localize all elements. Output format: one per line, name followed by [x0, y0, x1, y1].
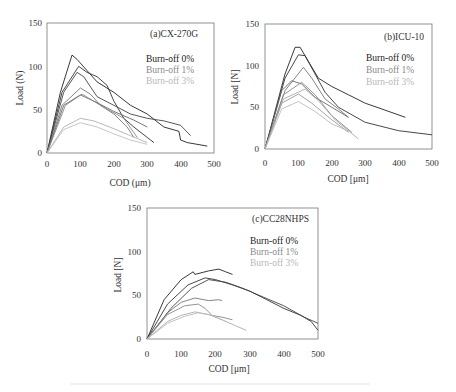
data-series-line: [147, 298, 222, 339]
x-axis-title: COD [μm]: [327, 174, 368, 184]
curves: [147, 269, 318, 339]
y-tick: 0: [137, 334, 142, 344]
y-tick: 0: [255, 144, 260, 154]
x-tick: 100: [73, 159, 87, 169]
x-tick: 500: [425, 158, 439, 168]
chart-panel-c: (c)CC28NHPS Burn-off 0% Burn-off 1% Burn…: [113, 203, 325, 374]
chart-panel-a: (a)CX-270G Burn-off 0% Burn-off 1% Burn-…: [15, 18, 221, 189]
x-tick-labels: 0 100 200 300 400 500: [145, 349, 326, 359]
y-tick: 50: [132, 290, 142, 300]
chart-panel-b: (b)ICU-10 Burn-off 0% Burn-off 1% Burn-o…: [230, 19, 439, 184]
x-tick: 100: [174, 349, 188, 359]
y-tick-labels: 0 50 100 150: [128, 203, 142, 344]
x-tick: 200: [325, 158, 339, 168]
legend-burnoff-0: Burn-off 0%: [250, 236, 298, 246]
legend-burnoff-0: Burn-off 0%: [366, 53, 414, 63]
legend-burnoff-3: Burn-off 3%: [250, 258, 298, 268]
x-tick: 400: [392, 158, 406, 168]
x-tick: 500: [207, 159, 221, 169]
x-tick: 0: [145, 349, 150, 359]
x-axis-title: COD [μm]: [208, 364, 249, 374]
y-tick: 150: [246, 19, 260, 29]
data-series-line: [265, 67, 349, 149]
panel-title: (b)ICU-10: [384, 32, 424, 43]
data-series-line: [147, 313, 226, 339]
y-tick: 50: [33, 105, 43, 115]
x-tick: 200: [208, 349, 222, 359]
data-series-line: [47, 66, 154, 153]
x-tick: 400: [277, 349, 291, 359]
panel-title: (a)CX-270G: [150, 29, 198, 40]
y-tick: 100: [128, 247, 142, 257]
y-tick: 150: [128, 203, 142, 213]
legend-burnoff-3: Burn-off 3%: [366, 77, 414, 87]
legend-burnoff-1: Burn-off 1%: [146, 65, 194, 75]
x-tick: 300: [140, 159, 154, 169]
figure: (a)CX-270G Burn-off 0% Burn-off 1% Burn-…: [0, 0, 456, 392]
y-tick: 0: [38, 148, 43, 158]
panel-title: (c)CC28NHPS: [252, 214, 309, 225]
x-tick: 200: [107, 159, 121, 169]
data-series-line: [47, 123, 147, 153]
legend-burnoff-1: Burn-off 1%: [366, 65, 414, 75]
x-axis-title: COD (μm): [109, 178, 150, 189]
x-tick: 0: [45, 159, 50, 169]
y-axis-title: Load (N): [15, 70, 26, 105]
y-tick: 100: [29, 62, 43, 72]
y-tick-labels: 0 50 100 150: [29, 18, 43, 158]
x-tick: 0: [263, 158, 268, 168]
legend-burnoff-0: Burn-off 0%: [146, 54, 194, 64]
legend-burnoff-3: Burn-off 3%: [146, 76, 194, 86]
legend-burnoff-1: Burn-off 1%: [250, 247, 298, 257]
y-tick: 100: [246, 61, 260, 71]
y-axis-title: Load [N]: [230, 69, 240, 104]
x-tick: 300: [243, 349, 257, 359]
y-tick-labels: 0 50 100 150: [246, 19, 260, 154]
x-tick: 400: [174, 159, 188, 169]
x-tick: 500: [311, 349, 325, 359]
x-tick-labels: 0 100 200 300 400 500: [45, 159, 222, 169]
x-tick-labels: 0 100 200 300 400 500: [263, 158, 440, 168]
x-tick: 100: [291, 158, 305, 168]
y-axis-title: Load [N]: [113, 257, 123, 292]
y-tick: 50: [250, 102, 260, 112]
data-series-line: [147, 312, 246, 339]
x-tick: 300: [358, 158, 372, 168]
y-tick: 150: [29, 18, 43, 28]
figure-caption-faint: [70, 383, 370, 385]
